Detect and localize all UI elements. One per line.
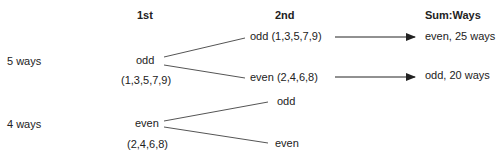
tree-connectors: [0, 0, 497, 156]
